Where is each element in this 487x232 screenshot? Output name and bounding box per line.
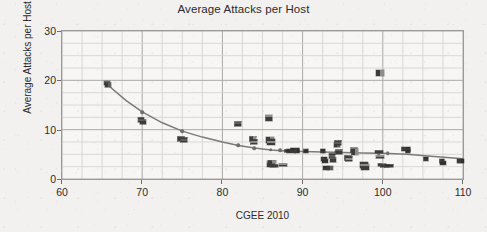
data-point-flag-marker	[336, 149, 343, 154]
data-point-flag-marker	[322, 159, 328, 163]
data-point-flag-marker	[375, 151, 383, 154]
y-tick-mark	[57, 179, 61, 180]
data-point-flag-marker	[440, 161, 446, 165]
data-point-flag-marker	[424, 157, 429, 161]
data-point-flag-marker	[334, 141, 341, 146]
x-tick-label: 100	[366, 186, 400, 198]
marker-layer	[62, 31, 463, 179]
data-point-flag-marker	[458, 159, 464, 163]
data-point-flag-marker	[265, 115, 272, 121]
x-tick-label: 60	[45, 186, 79, 198]
x-tick-mark	[302, 180, 303, 184]
x-tick-mark	[462, 180, 463, 184]
data-point-flag-marker	[303, 149, 308, 153]
data-point-flag-marker	[405, 149, 410, 153]
data-point-flag-marker	[180, 137, 187, 142]
data-point-flag-marker	[346, 157, 353, 162]
x-tick-label: 70	[125, 186, 159, 198]
x-tick-label: 80	[205, 186, 239, 198]
y-axis-tick-labels: 0102030	[30, 30, 56, 180]
x-axis-tick-labels: 60708090100110	[61, 186, 464, 202]
x-tick-mark	[141, 180, 142, 184]
data-point-flag-marker	[327, 166, 333, 170]
data-point-flag-marker	[279, 164, 287, 167]
data-point-flag-marker	[105, 83, 111, 88]
trend-node-marker	[278, 149, 282, 153]
plot-area	[61, 30, 464, 180]
trend-node-marker	[140, 110, 144, 114]
x-tick-label: 90	[286, 186, 320, 198]
data-point-flag-marker	[376, 155, 384, 158]
x-axis-title: CGEE 2010	[61, 210, 464, 221]
y-tick-label: 10	[30, 124, 56, 136]
data-point-flag-marker	[267, 139, 275, 145]
y-tick-mark	[57, 80, 61, 81]
y-tick-mark	[57, 130, 61, 131]
data-point-flag-marker	[351, 149, 358, 155]
y-tick-label: 30	[30, 25, 56, 37]
data-point-flag-marker	[234, 122, 241, 127]
data-point-flag-marker	[385, 164, 394, 167]
chart-title: Average Attacks per Host	[0, 3, 487, 15]
trend-node-marker	[181, 129, 185, 133]
trend-node-marker	[269, 148, 273, 152]
data-point-flag-marker	[361, 164, 369, 170]
y-tick-label: 0	[30, 173, 56, 185]
data-point-flag-marker	[251, 139, 258, 144]
data-point-flag-marker	[294, 149, 299, 153]
x-tick-label: 110	[446, 186, 480, 198]
trend-node-marker	[237, 144, 241, 148]
trend-node-marker	[386, 152, 390, 156]
trend-node-marker	[253, 146, 257, 150]
x-tick-mark	[221, 180, 222, 184]
data-point-flag-marker	[321, 149, 326, 153]
x-tick-mark	[61, 180, 62, 184]
data-point-flag-marker	[270, 164, 278, 167]
y-tick-mark	[57, 31, 61, 32]
y-tick-label: 20	[30, 74, 56, 86]
x-tick-mark	[382, 180, 383, 184]
scatter-chart: Average Attacks per Host Average Attacks…	[0, 0, 487, 232]
data-point-flag-marker	[140, 119, 146, 124]
data-point-flag-marker	[376, 70, 384, 76]
data-point-flag-marker	[330, 157, 336, 162]
